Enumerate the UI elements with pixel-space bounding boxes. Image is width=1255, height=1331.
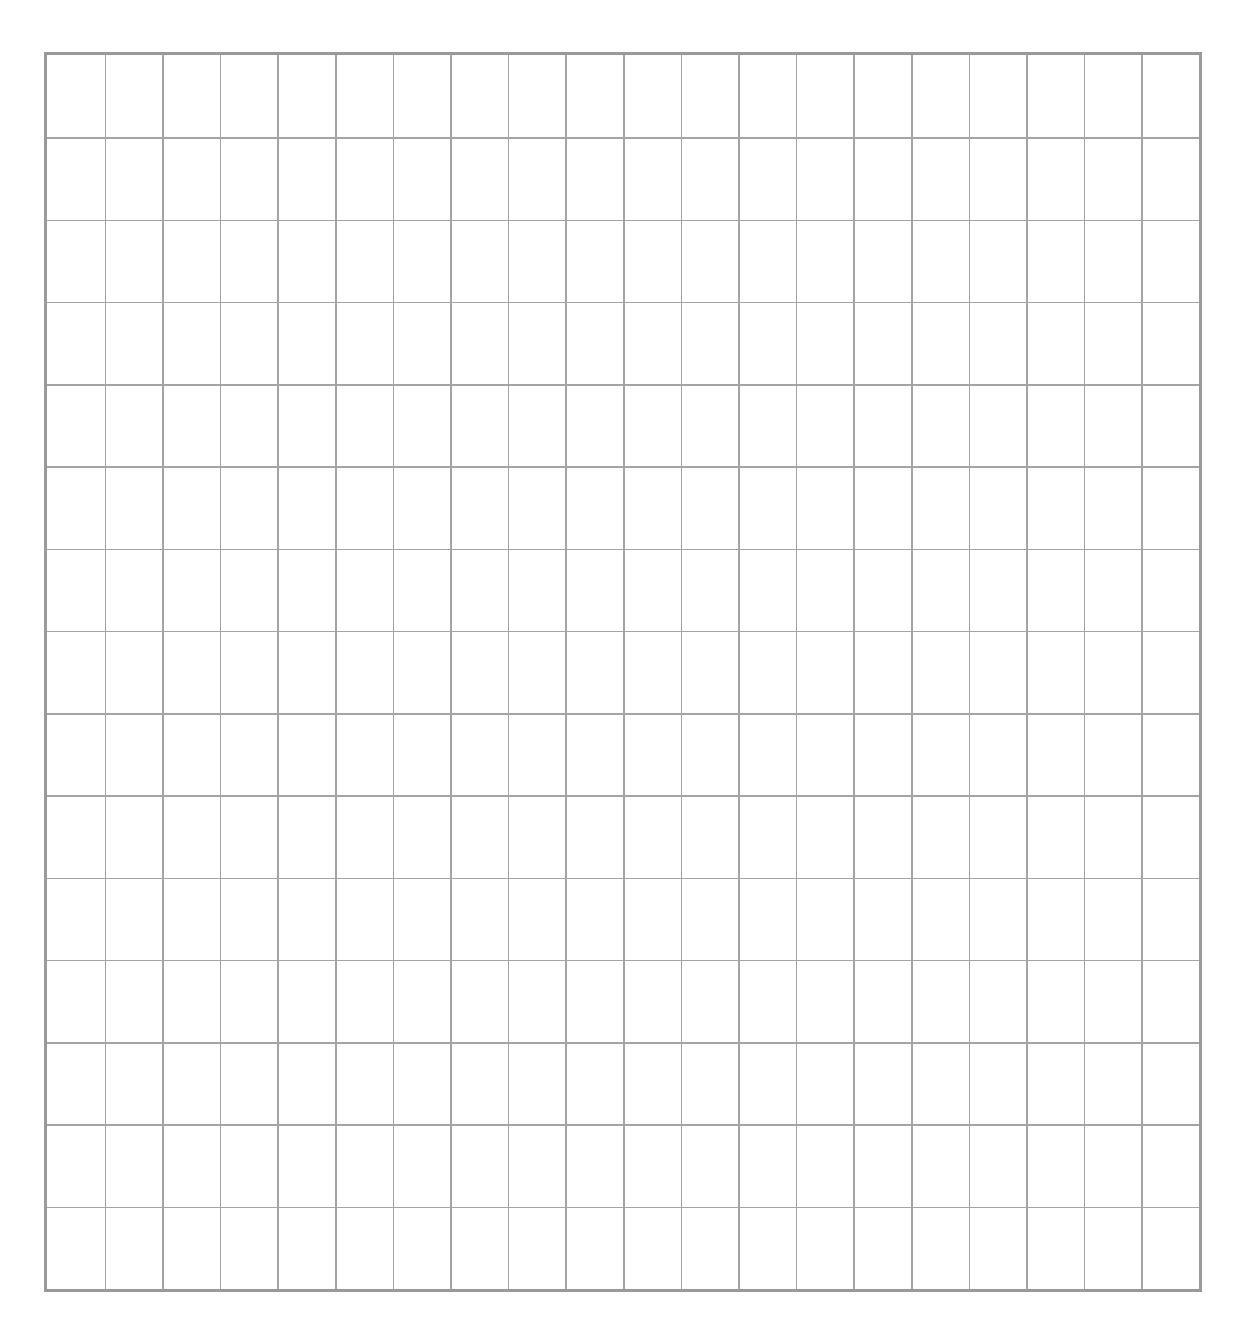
grid-column-line — [911, 55, 913, 1289]
grid-row-line — [47, 1124, 1199, 1126]
grid-row-line — [47, 384, 1199, 386]
grid-column-line — [277, 55, 279, 1289]
grid-column-line — [853, 55, 855, 1289]
grid-row-line — [47, 302, 1199, 304]
grid-column-line — [623, 55, 625, 1289]
grid-row-line — [47, 631, 1199, 633]
grid-column-line — [565, 55, 567, 1289]
grid-row-line — [47, 466, 1199, 468]
grid-row-line — [47, 713, 1199, 715]
grid-column-line — [162, 55, 164, 1289]
grid-row-line — [47, 549, 1199, 551]
grid-row-line — [47, 1042, 1199, 1044]
grid-row-line — [47, 878, 1199, 880]
grid-column-line — [1026, 55, 1028, 1289]
grid-column-line — [969, 55, 971, 1289]
grid-column-line — [393, 55, 395, 1289]
blank-grid-sheet — [44, 52, 1202, 1292]
grid-column-line — [738, 55, 740, 1289]
grid-column-line — [681, 55, 683, 1289]
grid-column-line — [335, 55, 337, 1289]
grid-column-line — [508, 55, 510, 1289]
grid-column-line — [1141, 55, 1143, 1289]
grid-row-line — [47, 220, 1199, 222]
grid-column-line — [1084, 55, 1086, 1289]
grid-row-line — [47, 795, 1199, 797]
grid-column-line — [220, 55, 222, 1289]
grid-row-line — [47, 137, 1199, 139]
grid-column-line — [796, 55, 798, 1289]
grid-row-line — [47, 960, 1199, 962]
grid-column-line — [105, 55, 107, 1289]
grid-row-line — [47, 1207, 1199, 1209]
grid-column-line — [450, 55, 452, 1289]
